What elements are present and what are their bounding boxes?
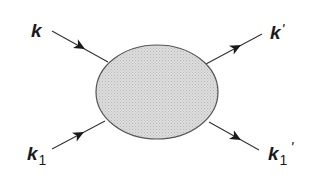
arrowhead-k1-icon — [72, 128, 86, 142]
label-k1-prime: k1' — [268, 138, 294, 168]
interaction-blob — [96, 45, 218, 139]
arrowhead-k1-prime-icon — [229, 130, 243, 144]
label-k: k — [31, 20, 43, 41]
arrowhead-k-prime-icon — [229, 41, 243, 55]
label-k1: k1 — [27, 143, 47, 168]
arrowhead-k-icon — [73, 39, 87, 53]
label-k-prime: k' — [270, 20, 286, 43]
scattering-diagram: k k' k1 k1' — [0, 0, 323, 179]
